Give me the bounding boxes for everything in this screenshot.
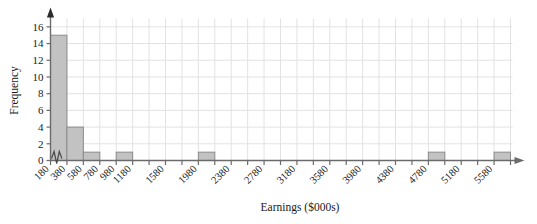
histogram-figure: 0246810121416180380580780980118015801980…: [0, 0, 537, 224]
histogram-bar: [428, 152, 444, 160]
x-axis-tick-label-group: 1980: [176, 163, 199, 186]
y-axis-title-group: Frequency: [8, 66, 21, 115]
x-axis-tick-label-group: 1580: [143, 163, 166, 186]
x-axis-tick-label-group: 3980: [340, 163, 363, 186]
x-axis-tick-label: 4380: [373, 163, 396, 186]
x-axis-title: Earnings ($000s): [261, 201, 340, 214]
histogram-bar: [116, 152, 132, 160]
x-axis-tick-label: 3580: [308, 163, 331, 186]
y-axis-tick-label: 16: [33, 21, 45, 33]
x-axis-tick-label-group: 2380: [209, 163, 232, 186]
y-axis-tick-label: 10: [33, 71, 45, 83]
x-axis-tick-label-group: 4780: [406, 163, 429, 186]
x-axis-tick-label: 5180: [439, 163, 462, 186]
x-axis-tick-label: 2380: [209, 163, 232, 186]
histogram-bar: [83, 152, 99, 160]
x-axis-tick-label: 2780: [242, 163, 265, 186]
x-axis-arrowhead: [515, 157, 525, 164]
x-axis-tick-label-group: 5180: [439, 163, 462, 186]
x-axis-tick-label: 1580: [143, 163, 166, 186]
histogram-bar: [494, 152, 510, 160]
x-axis-tick-label: 380: [48, 163, 67, 182]
x-axis-tick-label-group: 5580: [472, 163, 495, 186]
y-axis-tick-label: 14: [33, 37, 45, 49]
y-axis-tick-label: 2: [38, 138, 44, 150]
histogram-bar: [198, 152, 214, 160]
y-axis-tick-label: 6: [38, 104, 44, 116]
x-axis-tick-label-group: 2780: [242, 163, 265, 186]
x-axis-tick-label-group: 4380: [373, 163, 396, 186]
x-axis-tick-label: 780: [81, 163, 100, 182]
x-axis-tick-label-group: 780: [81, 163, 100, 182]
x-axis-tick-label: 5580: [472, 163, 495, 186]
x-axis-tick-label: 3980: [340, 163, 363, 186]
x-axis-tick-label: 3180: [275, 163, 298, 186]
y-axis-tick-label: 4: [38, 121, 44, 133]
x-axis-tick-label: 1980: [176, 163, 199, 186]
y-axis-tick-label: 12: [33, 54, 44, 66]
x-axis-tick-label-group: 3180: [275, 163, 298, 186]
x-axis-tick-label: 4780: [406, 163, 429, 186]
x-axis-tick-label-group: 3580: [308, 163, 331, 186]
x-axis-tick-label: 1180: [111, 163, 133, 185]
histogram-bar: [51, 35, 67, 160]
histogram-svg: 0246810121416180380580780980118015801980…: [0, 0, 537, 224]
y-axis-tick-label: 8: [38, 87, 44, 99]
y-axis-title: Frequency: [8, 66, 21, 115]
histogram-bar: [67, 127, 83, 160]
x-axis-tick-label-group: 380: [48, 163, 67, 182]
x-axis-tick-label: 580: [65, 163, 84, 182]
x-axis-tick-label-group: 180: [32, 163, 51, 182]
y-axis-arrowhead: [47, 8, 54, 18]
x-axis-tick-label-group: 580: [65, 163, 84, 182]
x-axis-tick-label-group: 1180: [111, 163, 133, 185]
x-axis-tick-label: 180: [32, 163, 51, 182]
